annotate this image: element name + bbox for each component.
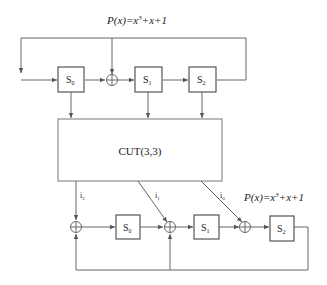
bottom-xor-gate-3 <box>240 222 251 233</box>
top-register-s0: S0 <box>58 67 84 92</box>
top-register-s1: S1 <box>135 67 162 92</box>
register-to-cut-lines <box>71 92 202 118</box>
cut-block: CUT(3,3) <box>58 119 222 181</box>
cut-label: CUT(3,3) <box>118 145 161 158</box>
bottom-register-s0: S0 <box>116 215 140 239</box>
bottom-xor-gate-2 <box>165 222 176 233</box>
bottom-register-s1: S1 <box>194 215 219 239</box>
input-label-i2: i2 <box>80 191 85 201</box>
input-label-i1: i1 <box>155 191 160 201</box>
lfsr-diagram: P(x)=x3+x+1 S0 S1 S2 CUT(3 <box>0 0 327 285</box>
top-xor-gate <box>107 75 118 86</box>
input-label-i0: i0 <box>220 191 225 201</box>
bottom-xor-gate-1 <box>71 222 82 233</box>
bottom-polynomial-label: P(x)=x3+x+1 <box>243 191 304 204</box>
top-register-s2: S2 <box>189 67 216 92</box>
top-polynomial-label: P(x)=x3+x+1 <box>106 14 167 27</box>
bottom-register-s2: S2 <box>270 216 294 241</box>
